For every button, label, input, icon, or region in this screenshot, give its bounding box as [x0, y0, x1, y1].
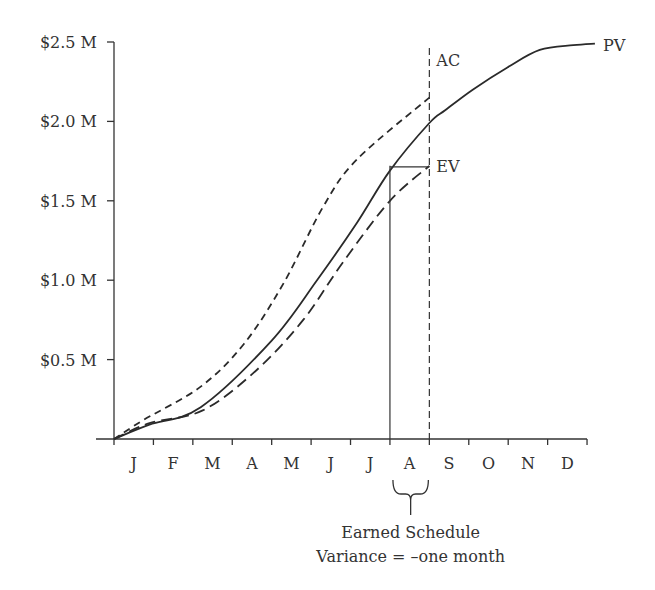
y-tick-label: $1.0 M	[40, 271, 97, 290]
earned-schedule-chart: $0.5 M$1.0 M$1.5 M$2.0 M$2.5 M JFMAMJJAS…	[0, 0, 655, 590]
x-tick-label: J	[365, 454, 373, 473]
x-axis-labels: JFMAMJJASOND	[128, 454, 573, 473]
y-axis-labels: $0.5 M$1.0 M$1.5 M$2.0 M$2.5 M	[40, 33, 97, 370]
x-tick-label: D	[561, 454, 574, 473]
x-tick-label: S	[444, 454, 455, 473]
annotations: PVACEVEarned ScheduleVariance = –one mon…	[315, 36, 625, 566]
brace-label-line2: Variance = –one month	[315, 547, 505, 566]
series-lines	[114, 44, 595, 439]
series-label-pv: PV	[603, 36, 626, 55]
axes	[96, 42, 587, 445]
x-tick-label: J	[128, 454, 136, 473]
x-tick-label: F	[168, 454, 179, 473]
series-ac-line	[114, 98, 429, 439]
x-tick-label: M	[204, 454, 220, 473]
brace-icon	[393, 480, 428, 515]
x-tick-label: O	[482, 454, 495, 473]
y-tick-label: $2.0 M	[40, 112, 97, 131]
brace-label-line1: Earned Schedule	[341, 523, 480, 542]
x-tick-label: A	[403, 454, 416, 473]
y-tick-label: $1.5 M	[40, 192, 97, 211]
series-pv-line	[114, 44, 595, 439]
x-tick-label: J	[326, 454, 334, 473]
y-tick-label: $2.5 M	[40, 33, 97, 52]
y-tick-label: $0.5 M	[40, 351, 97, 370]
series-label-ev: EV	[436, 157, 460, 176]
series-ev-line	[114, 166, 429, 439]
x-tick-label: N	[521, 454, 535, 473]
series-label-ac: AC	[435, 51, 460, 70]
x-tick-label: M	[283, 454, 299, 473]
x-tick-label: A	[245, 454, 258, 473]
